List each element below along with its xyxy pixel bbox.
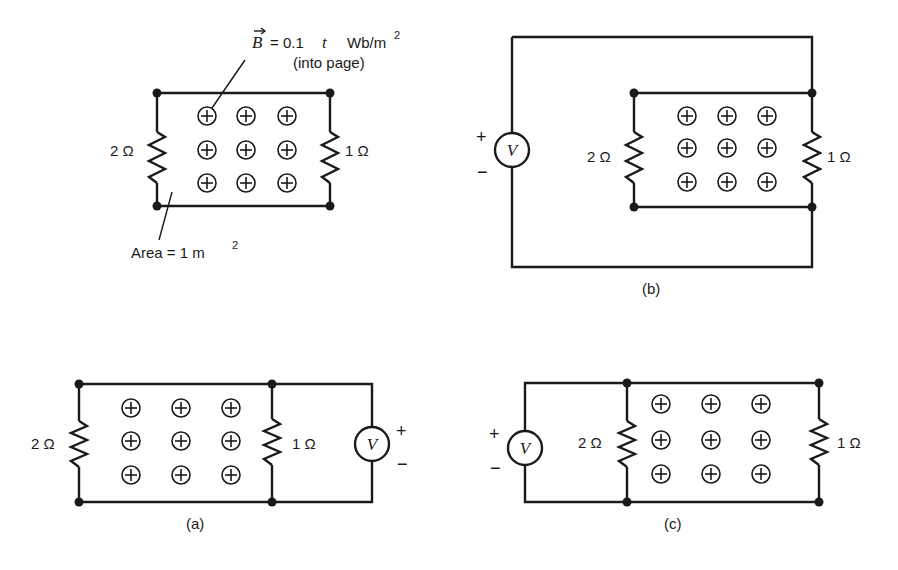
magnetic-field-into-page-icon: [652, 395, 770, 483]
label-2ohm: 2 Ω: [578, 434, 602, 451]
caption-b: (b): [642, 280, 660, 297]
resistor-1ohm: [804, 132, 820, 183]
magnetic-field-into-page-icon: [198, 107, 296, 192]
label-2ohm: 2 Ω: [110, 142, 134, 159]
plus-terminal: +: [476, 127, 487, 147]
minus-terminal: −: [490, 458, 501, 478]
circuit-b: V + − 2 Ω 1 Ω (b): [476, 37, 851, 297]
magnetic-field-into-page-icon: [122, 399, 240, 484]
resistor-2ohm: [626, 132, 642, 183]
caption-a: (a): [186, 515, 204, 532]
area-label: Area = 1 m: [131, 244, 205, 261]
plus-terminal: +: [396, 421, 407, 441]
field-direction-note: (into page): [293, 54, 365, 71]
label-1ohm: 1 Ω: [292, 435, 316, 452]
minus-terminal: −: [477, 162, 488, 182]
field-equation: = 0.1: [270, 34, 304, 51]
label-1ohm: 1 Ω: [345, 142, 369, 159]
plus-terminal: +: [489, 424, 500, 444]
field-time-var: t: [322, 33, 328, 52]
field-units-exponent: 2: [394, 29, 400, 41]
caption-c: (c): [664, 515, 682, 532]
label-1ohm: 1 Ω: [837, 434, 861, 451]
label-2ohm: 2 Ω: [31, 435, 55, 452]
minus-terminal: −: [397, 454, 408, 474]
resistor-1ohm: [264, 419, 280, 465]
voltmeter: V: [355, 427, 389, 461]
label-1ohm: 1 Ω: [827, 148, 851, 165]
area-exponent: 2: [232, 239, 238, 251]
magnetic-field-into-page-icon: [678, 107, 776, 191]
circuit-top-left: 2 Ω 1 Ω B = 0.1 t Wb/m 2 (into page) Are…: [110, 28, 400, 261]
resistor-2ohm: [71, 421, 87, 467]
voltmeter: V: [495, 133, 529, 167]
circuit-a: V + − 2 Ω 1 Ω (a): [31, 380, 408, 533]
resistor-1ohm: [322, 132, 338, 183]
voltmeter-label: V: [507, 141, 520, 160]
circuit-c: V + − 2 Ω 1 Ω (c): [489, 379, 861, 533]
label-2ohm: 2 Ω: [587, 148, 611, 165]
voltmeter-label: V: [367, 435, 380, 454]
voltmeter-label: V: [520, 439, 533, 458]
voltmeter: V: [508, 431, 542, 465]
resistor-2ohm: [619, 421, 635, 467]
resistor-2ohm: [149, 132, 165, 183]
resistor-1ohm: [811, 419, 827, 465]
field-symbol-B: B: [252, 33, 263, 52]
field-units: Wb/m: [347, 34, 386, 51]
